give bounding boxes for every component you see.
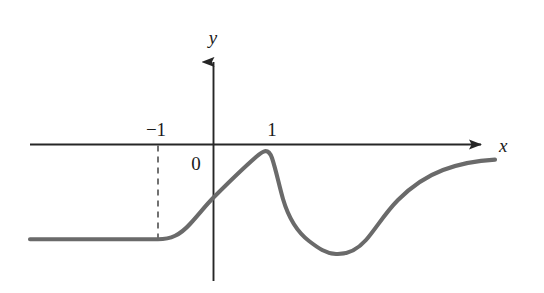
x-tick-label-1: 1 bbox=[267, 119, 277, 140]
x-tick-label-minus-1: −1 bbox=[146, 119, 166, 140]
x-axis-label: x bbox=[498, 135, 508, 156]
function-graph-figure: x y 0 −1 1 bbox=[0, 0, 544, 293]
y-axis-label: y bbox=[207, 27, 218, 48]
figure-background bbox=[0, 0, 544, 293]
origin-label: 0 bbox=[191, 153, 201, 174]
